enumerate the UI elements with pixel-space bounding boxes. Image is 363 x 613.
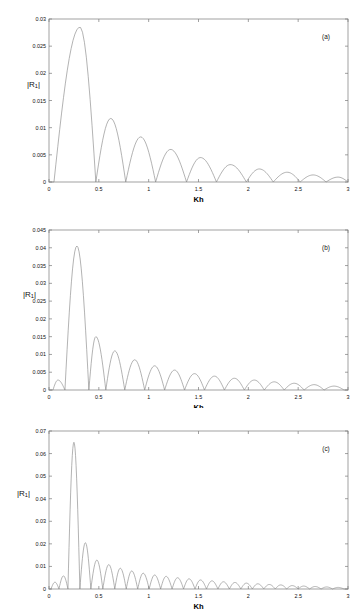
y-tick-label: 0.01 xyxy=(36,351,47,357)
data-curve xyxy=(49,246,348,390)
x-tick-label: 0.5 xyxy=(95,394,103,400)
y-tick-label: 0.025 xyxy=(33,43,47,49)
x-tick-label: 3 xyxy=(347,186,350,192)
x-tick-label: 1 xyxy=(147,593,150,599)
x-tick-label: 3 xyxy=(347,394,350,400)
y-tick-label: 0.02 xyxy=(36,70,47,76)
x-tick-label: 2 xyxy=(247,394,250,400)
x-tick-label: 1 xyxy=(147,186,150,192)
panel-tag: (b) xyxy=(322,244,330,252)
x-tick-label: 0 xyxy=(48,186,51,192)
plot-area-a: 00.511.522.5300.0050.010.0150.020.0250.0… xyxy=(0,0,363,204)
x-tick-label: 1.5 xyxy=(195,593,203,599)
axes-frame xyxy=(49,19,348,182)
x-axis-title: Kh xyxy=(193,602,203,609)
y-tick-label: 0.06 xyxy=(36,451,47,457)
axes-frame xyxy=(49,230,348,390)
y-tick-label: 0.025 xyxy=(33,298,47,304)
x-tick-label: 1.5 xyxy=(195,394,203,400)
y-tick-label: 0.03 xyxy=(36,280,47,286)
y-tick-label: 0.005 xyxy=(33,152,47,158)
x-axis-title: Kh xyxy=(193,195,203,204)
y-tick-label: 0.035 xyxy=(33,263,47,269)
y-tick-label: 0.02 xyxy=(36,541,47,547)
x-tick-label: 1 xyxy=(147,394,150,400)
figure-container: |R1| 00.511.522.5300.0050.010.0150.020.0… xyxy=(0,0,363,613)
y-tick-label: 0 xyxy=(43,387,46,393)
axes-frame xyxy=(49,431,348,589)
y-tick-label: 0.03 xyxy=(36,518,47,524)
y-axis-label-a: |R1| xyxy=(27,80,40,89)
y-tick-label: 0.04 xyxy=(36,496,47,502)
y-tick-label: 0.045 xyxy=(33,227,47,233)
y-tick-label: 0.05 xyxy=(36,473,47,479)
x-tick-label: 2.5 xyxy=(294,593,302,599)
panel-tag: (a) xyxy=(322,33,330,41)
y-tick-label: 0 xyxy=(43,179,46,185)
y-tick-label: 0.015 xyxy=(33,98,47,104)
plot-panel-a: |R1| 00.511.522.5300.0050.010.0150.020.0… xyxy=(0,0,363,204)
y-tick-label: 0.07 xyxy=(36,428,47,434)
data-curve xyxy=(49,28,348,182)
y-tick-label: 0.005 xyxy=(33,369,47,375)
y-tick-label: 0.015 xyxy=(33,334,47,340)
x-tick-label: 2.5 xyxy=(294,394,302,400)
x-tick-label: 1.5 xyxy=(195,186,203,192)
x-tick-label: 0.5 xyxy=(95,186,103,192)
data-curve xyxy=(49,442,348,589)
x-tick-label: 2 xyxy=(247,593,250,599)
plot-panel-c: |R1| 00.511.522.5300.010.020.030.040.050… xyxy=(0,405,363,609)
panel-tag: (c) xyxy=(322,445,329,453)
x-tick-label: 3 xyxy=(347,593,350,599)
x-tick-label: 2 xyxy=(247,186,250,192)
plot-area-c: 00.511.522.5300.010.020.030.040.050.060.… xyxy=(0,405,363,609)
x-tick-label: 2.5 xyxy=(294,186,302,192)
x-tick-label: 0 xyxy=(48,394,51,400)
y-tick-label: 0.02 xyxy=(36,316,47,322)
y-axis-label-b: |R1| xyxy=(23,290,36,299)
plot-panel-b: |R1| 00.511.522.5300.0050.010.0150.020.0… xyxy=(0,204,363,408)
x-tick-label: 0.5 xyxy=(95,593,103,599)
y-tick-label: 0.01 xyxy=(36,125,47,131)
y-tick-label: 0.04 xyxy=(36,245,47,251)
y-tick-label: 0.03 xyxy=(36,16,47,22)
x-tick-label: 0 xyxy=(48,593,51,599)
y-axis-label-c: |R1| xyxy=(17,489,30,498)
plot-area-b: 00.511.522.5300.0050.010.0150.020.0250.0… xyxy=(0,204,363,408)
y-tick-label: 0.01 xyxy=(36,563,47,569)
y-tick-label: 0 xyxy=(43,586,46,592)
